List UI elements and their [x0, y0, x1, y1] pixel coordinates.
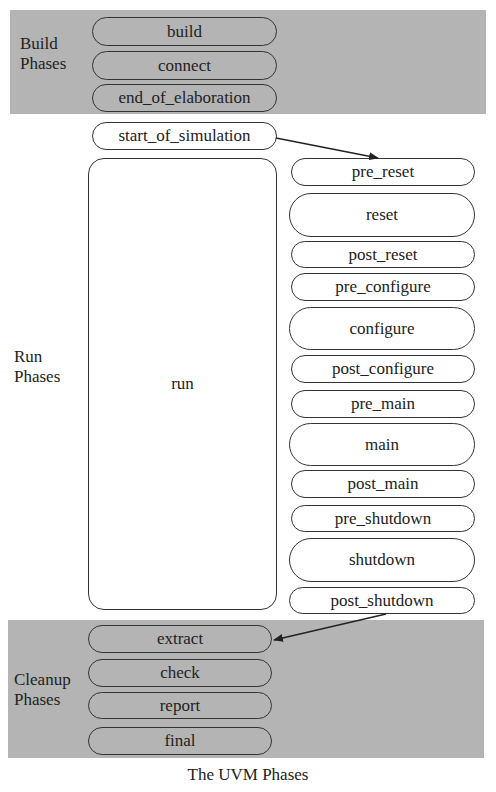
- figure-caption: The UVM Phases: [0, 765, 496, 785]
- run-label-line2: Phases: [14, 367, 60, 387]
- phase-start-of-simulation: start_of_simulation: [92, 122, 277, 150]
- cleanup-label-line2: Phases: [14, 690, 71, 710]
- phase-pre-shutdown: pre_shutdown: [291, 505, 475, 532]
- phase-final: final: [88, 727, 272, 755]
- phase-post-shutdown: post_shutdown: [289, 587, 475, 614]
- arrow-start-to-pre-reset: [276, 138, 378, 158]
- phase-end-of-elaboration: end_of_elaboration: [92, 84, 277, 112]
- phase-main: main: [289, 423, 475, 466]
- phase-report: report: [88, 692, 272, 719]
- phase-pre-reset: pre_reset: [291, 158, 475, 186]
- build-phases-label: Build Phases: [20, 34, 66, 74]
- phase-pre-configure: pre_configure: [291, 273, 475, 301]
- phase-build: build: [92, 17, 277, 46]
- cleanup-label-line1: Cleanup: [14, 670, 71, 690]
- phase-post-reset: post_reset: [291, 241, 475, 268]
- phase-configure: configure: [289, 307, 475, 350]
- cleanup-phases-label: Cleanup Phases: [14, 670, 71, 710]
- phase-run: run: [88, 158, 277, 610]
- phase-check: check: [88, 659, 272, 687]
- run-phases-label: Run Phases: [14, 347, 60, 387]
- phase-connect: connect: [92, 51, 277, 80]
- phase-extract: extract: [88, 625, 272, 653]
- run-label-line1: Run: [14, 347, 60, 367]
- build-label-line2: Phases: [20, 54, 66, 74]
- phase-post-main: post_main: [291, 470, 475, 498]
- phase-reset: reset: [289, 193, 475, 237]
- phase-shutdown: shutdown: [289, 538, 475, 582]
- build-label-line1: Build: [20, 34, 66, 54]
- phase-pre-main: pre_main: [291, 390, 475, 418]
- phase-post-configure: post_configure: [291, 355, 475, 383]
